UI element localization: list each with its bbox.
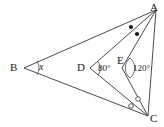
- segment-EC: [122, 68, 148, 116]
- angle-label-80: 80°: [98, 64, 111, 73]
- filled-dot-icon: [135, 32, 139, 36]
- segment-BC: [24, 68, 148, 116]
- vertex-label-a: A: [150, 2, 158, 13]
- segment-EA: [122, 10, 156, 68]
- angle-label-120: 120°: [133, 64, 150, 73]
- filled-dot-icon: [129, 25, 133, 29]
- angle-marks-C: [129, 97, 141, 109]
- vertex-label-d: D: [77, 62, 85, 73]
- vertex-label-e: E: [117, 55, 124, 66]
- segment-BA: [24, 10, 156, 68]
- open-circle-icon: [129, 104, 134, 109]
- vertex-label-c: C: [150, 113, 157, 124]
- open-circle-icon: [136, 97, 141, 102]
- vertex-label-b: B: [10, 62, 17, 73]
- geometry-diagram: A B C D E x 80° 120°: [0, 0, 164, 127]
- segment-DC: [90, 68, 148, 116]
- angle-label-x: x: [39, 62, 43, 72]
